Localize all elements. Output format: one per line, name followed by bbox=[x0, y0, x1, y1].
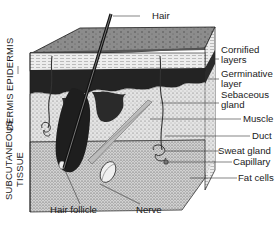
label-subcutaneous: SUBCUTANEOUS bbox=[4, 120, 14, 200]
label-tissue: TISSUE bbox=[15, 152, 25, 187]
label-germinative-2: layer bbox=[221, 79, 242, 89]
skin-block-illustration bbox=[0, 0, 279, 228]
label-hair: Hair bbox=[152, 11, 170, 21]
skin-cross-section-diagram: EPIDERMIS DERMIS SUBCUTANEOUS TISSUE Hai… bbox=[0, 0, 279, 228]
capillary bbox=[164, 160, 168, 164]
label-duct: Duct bbox=[252, 131, 272, 141]
label-epidermis: EPIDERMIS bbox=[5, 38, 15, 91]
label-nerve: Nerve bbox=[136, 205, 162, 215]
label-hair-follicle: Hair follicle bbox=[50, 205, 97, 215]
label-cornified-2: layers bbox=[221, 55, 247, 65]
label-fat-cells: Fat cells bbox=[238, 173, 274, 183]
label-capillary: Capillary bbox=[233, 157, 270, 167]
label-sweat-gland: Sweat gland bbox=[218, 146, 271, 156]
label-sebaceous-2: gland bbox=[221, 100, 244, 110]
label-muscle: Muscle bbox=[243, 114, 273, 124]
